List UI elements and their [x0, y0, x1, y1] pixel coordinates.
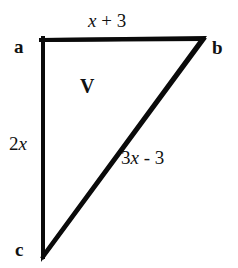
edge-left-prefix: 2: [9, 133, 19, 154]
edge-label-hypotenuse: 3x - 3: [121, 148, 164, 167]
edge-top-suffix: + 3: [96, 10, 126, 31]
edge-left-variable: x: [19, 133, 27, 154]
vertex-label-b: b: [212, 38, 223, 57]
edge-hyp-variable: x: [131, 147, 139, 168]
edge-hyp-suffix: - 3: [139, 147, 164, 168]
edge-label-left: 2x: [9, 134, 27, 153]
region-label-v: V: [80, 76, 94, 96]
edge-label-top: x + 3: [88, 11, 126, 30]
vertex-label-a: a: [14, 37, 24, 56]
edge-hyp-prefix: 3: [121, 147, 131, 168]
vertex-label-c: c: [15, 240, 23, 259]
triangle-figure: [0, 0, 238, 268]
edge-top: [41, 39, 203, 40]
